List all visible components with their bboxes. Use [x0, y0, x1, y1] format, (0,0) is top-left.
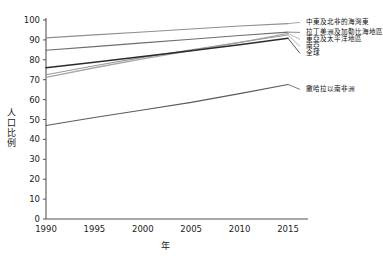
legend-leader-line [288, 22, 300, 23]
legend-leader-line [288, 84, 300, 89]
series-line [46, 24, 288, 38]
series-line [46, 32, 288, 50]
series-line [46, 38, 288, 67]
legend-item-label[interactable]: 全球 [306, 50, 320, 57]
line-chart: 人口比例 年 0102030405060708090100 1990199520… [0, 0, 383, 256]
legend-item-label[interactable]: 中東及北非的海灣東 [306, 19, 369, 26]
series-line [46, 84, 288, 125]
legend-item-label[interactable]: 撒哈拉以南非洲 [306, 86, 355, 93]
